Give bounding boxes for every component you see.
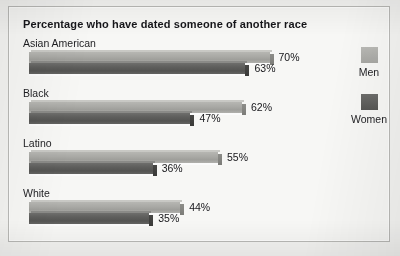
legend-swatch-women-icon [361, 94, 378, 110]
bar-women [29, 213, 149, 224]
chart-frame: Percentage who have dated someone of ano… [8, 6, 390, 242]
bar-women [29, 163, 153, 174]
bar-end-cap [245, 65, 249, 76]
chart-title: Percentage who have dated someone of ano… [23, 18, 307, 30]
chart-legend: Men Women [339, 47, 399, 141]
chart-plot-area: Percentage who have dated someone of ano… [9, 7, 389, 241]
bar-base-shadow [29, 74, 245, 76]
bar-front-face [29, 163, 153, 174]
legend-label-men: Men [339, 66, 399, 78]
bar-base-shadow [29, 224, 149, 226]
legend-swatch-men-icon [361, 47, 378, 63]
bar-front-face [29, 113, 190, 124]
legend-label-women: Women [339, 113, 399, 125]
bar-end-cap [180, 204, 184, 215]
bar-end-cap [218, 154, 222, 165]
chart-screenshot: Percentage who have dated someone of ano… [0, 0, 400, 256]
category-label: White [23, 187, 50, 199]
value-label-men: 44% [189, 201, 210, 213]
bar-end-cap [242, 104, 246, 115]
bar-base-shadow [29, 174, 153, 176]
value-label-women: 47% [199, 112, 220, 124]
bar-end-cap [190, 115, 194, 126]
value-label-men: 70% [279, 51, 300, 63]
category-label: Asian American [23, 37, 96, 49]
value-label-men: 55% [227, 151, 248, 163]
bar-front-face [29, 213, 149, 224]
bar-base-shadow [29, 124, 190, 126]
bar-end-cap [153, 165, 157, 176]
value-label-women: 63% [254, 62, 275, 74]
category-label: Black [23, 87, 49, 99]
value-label-women: 35% [158, 212, 179, 224]
bar-women [29, 63, 245, 74]
bar-end-cap [149, 215, 153, 226]
category-label: Latino [23, 137, 52, 149]
legend-item-women: Women [339, 94, 399, 125]
bar-women [29, 113, 190, 124]
legend-item-men: Men [339, 47, 399, 78]
value-label-women: 36% [162, 162, 183, 174]
bar-front-face [29, 63, 245, 74]
value-label-men: 62% [251, 101, 272, 113]
